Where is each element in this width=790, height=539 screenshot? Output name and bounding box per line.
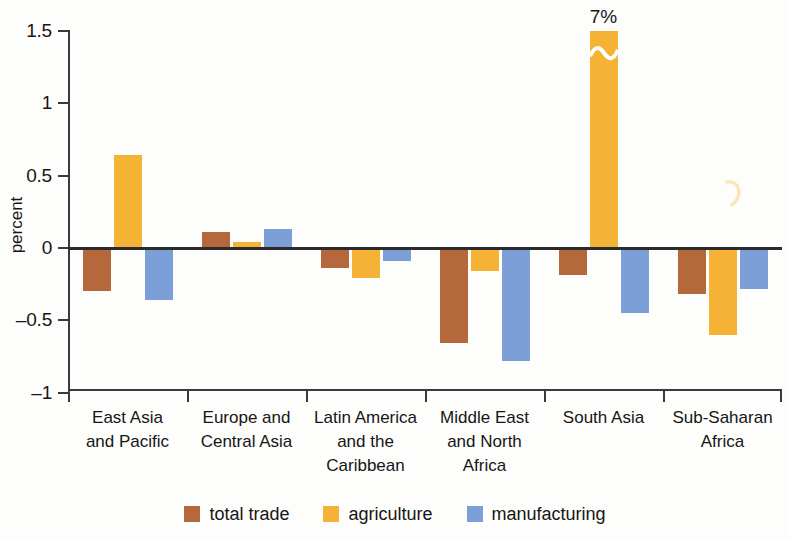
legend-swatch — [323, 506, 339, 522]
y-axis-line — [68, 31, 70, 390]
x-axis-group-label-line: Middle East — [425, 406, 544, 430]
y-axis-tick-label: –1 — [0, 383, 52, 402]
x-axis-tick — [544, 389, 546, 402]
x-axis-group-label: Sub-SaharanAfrica — [663, 406, 782, 454]
bar — [590, 31, 618, 248]
x-axis-group-label-line: Central Asia — [187, 430, 306, 454]
x-axis-group-label: Europe andCentral Asia — [187, 406, 306, 454]
x-axis-tick — [663, 389, 665, 402]
bar-value-annotation: 7% — [570, 7, 638, 26]
legend-label: agriculture — [348, 505, 432, 523]
y-axis-tick-label: 1.5 — [0, 21, 52, 40]
x-axis-group-label-line: Latin America — [306, 406, 425, 430]
legend-label: manufacturing — [492, 505, 606, 523]
bar — [440, 248, 468, 343]
bar — [502, 248, 530, 361]
bar — [264, 229, 292, 248]
bar — [145, 248, 173, 300]
bar — [83, 248, 111, 291]
y-axis-tick-label: 1 — [0, 93, 52, 112]
legend-item: total trade — [184, 505, 289, 523]
bar — [321, 248, 349, 268]
legend-swatch — [467, 506, 483, 522]
x-axis-tick — [306, 389, 308, 402]
y-axis-tick — [58, 30, 70, 32]
x-axis-group-label: East Asiaand Pacific — [68, 406, 187, 454]
bar — [114, 155, 142, 248]
x-axis-group-label-line: and the — [306, 430, 425, 454]
x-axis-tick — [780, 389, 782, 402]
y-axis-tick-label: 0.5 — [0, 166, 52, 185]
y-axis-tick — [58, 319, 70, 321]
bar-chart: percent 1.510.50–0.5–1 East Asiaand Paci… — [0, 0, 790, 539]
x-axis-group-label-line: Caribbean — [306, 454, 425, 478]
x-axis-group-label-line: Africa — [425, 454, 544, 478]
zero-baseline — [68, 247, 782, 250]
x-axis-tick — [68, 389, 70, 402]
x-axis-tick — [187, 389, 189, 402]
legend-item: manufacturing — [467, 505, 606, 523]
bar — [740, 248, 768, 289]
bar — [709, 248, 737, 335]
x-axis-tick — [425, 389, 427, 402]
x-axis-group-label-line: East Asia — [68, 406, 187, 430]
x-axis-group-label-line: Africa — [663, 430, 782, 454]
x-axis-group-label-line: Europe and — [187, 406, 306, 430]
y-axis-tick-label: –0.5 — [0, 310, 52, 329]
y-axis-tick-label: 0 — [0, 238, 52, 257]
legend-item: agriculture — [323, 505, 432, 523]
x-axis-group-label-line: and Pacific — [68, 430, 187, 454]
bar — [678, 248, 706, 294]
bar — [621, 248, 649, 313]
scan-artifact — [711, 176, 745, 212]
x-axis-group-label-line: South Asia — [544, 406, 663, 430]
x-axis-group-label-line: and North — [425, 430, 544, 454]
legend: total tradeagriculturemanufacturing — [0, 505, 790, 523]
y-axis-tick — [58, 175, 70, 177]
bar — [352, 248, 380, 278]
bar — [471, 248, 499, 271]
x-axis-group-label: South Asia — [544, 406, 663, 430]
x-axis-group-label: Middle Eastand NorthAfrica — [425, 406, 544, 478]
legend-label: total trade — [209, 505, 289, 523]
y-axis-tick — [58, 102, 70, 104]
bar — [202, 232, 230, 248]
bar — [559, 248, 587, 275]
x-axis-group-label-line: Sub-Saharan — [663, 406, 782, 430]
legend-swatch — [184, 506, 200, 522]
x-axis-group-label: Latin Americaand theCaribbean — [306, 406, 425, 478]
